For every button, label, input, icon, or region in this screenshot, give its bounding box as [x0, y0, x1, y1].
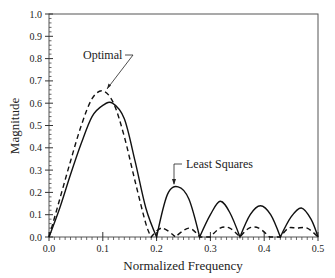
x-tick-label: 0.2 — [150, 243, 163, 254]
x-tick-label: 0.1 — [97, 243, 110, 254]
y-tick-label: 0.8 — [30, 53, 43, 64]
y-tick-label: 0.4 — [30, 142, 43, 153]
y-tick-label: 0.7 — [30, 75, 43, 86]
x-tick-label: 0.0 — [43, 243, 56, 254]
x-tick-label: 0.5 — [312, 243, 325, 254]
least-squares-annotation: Least Squares — [186, 157, 253, 171]
y-tick-label: 0.2 — [30, 187, 43, 198]
optimal-curve — [49, 91, 318, 237]
least-squares-curve — [49, 102, 318, 237]
optimal-annotation: Optimal — [83, 48, 123, 62]
x-axis: 0.00.10.20.30.40.5 — [43, 232, 325, 254]
y-tick-label: 0.5 — [30, 120, 43, 131]
y-tick-label: 0.3 — [30, 165, 43, 176]
series-layer — [49, 91, 318, 237]
x-tick-label: 0.4 — [258, 243, 271, 254]
y-tick-label: 0.1 — [30, 209, 43, 220]
y-tick-label: 1.0 — [30, 9, 43, 20]
annotation-layer: OptimalLeast Squares — [83, 48, 253, 185]
y-tick-label: 0.9 — [30, 31, 43, 42]
x-tick-label: 0.3 — [204, 243, 217, 254]
y-axis-label: Magnitude — [7, 98, 22, 155]
y-tick-label: 0.6 — [30, 98, 43, 109]
x-axis-label: Normalized Frequency — [123, 258, 243, 273]
magnitude-response-chart: 0.00.10.20.30.40.50.60.70.80.91.0 0.00.1… — [0, 0, 335, 278]
y-tick-label: 0.0 — [30, 232, 43, 243]
arrowhead-icon — [172, 179, 176, 185]
